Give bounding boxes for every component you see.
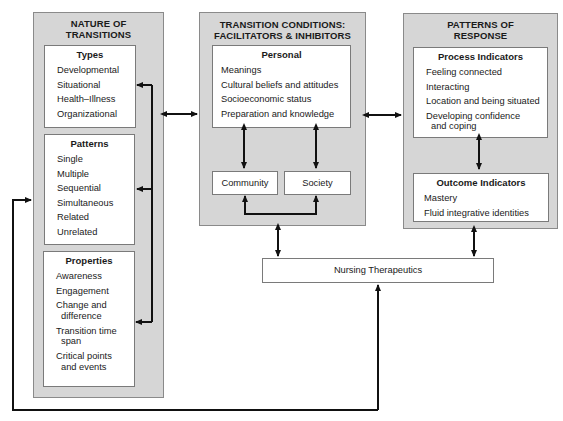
process-item: Interacting bbox=[426, 80, 547, 95]
society-box: Society bbox=[284, 171, 351, 195]
types-box: Types Developmental Situational Health–I… bbox=[44, 45, 136, 128]
pattern-item: Multiple bbox=[57, 167, 134, 182]
type-item: Situational bbox=[57, 78, 135, 93]
personal-item: Preparation and knowledge bbox=[221, 107, 350, 122]
pattern-item: Related bbox=[57, 210, 134, 225]
nursing-therapeutics-box: Nursing Therapeutics bbox=[262, 258, 494, 283]
personal-title: Personal bbox=[213, 49, 350, 61]
property-line: Critical points bbox=[56, 351, 112, 361]
personal-item: Meanings bbox=[221, 63, 350, 78]
community-label: Community bbox=[221, 178, 268, 188]
pattern-item: Unrelated bbox=[57, 225, 134, 240]
property-line-cont: difference bbox=[56, 311, 134, 322]
property-line: Engagement bbox=[56, 286, 109, 296]
property-item: Engagement bbox=[56, 284, 134, 299]
pattern-item: Sequential bbox=[57, 181, 134, 196]
pattern-item: Single bbox=[57, 152, 134, 167]
type-item: Developmental bbox=[57, 63, 135, 78]
property-line-cont: and events bbox=[56, 362, 134, 373]
personal-box: Personal Meanings Cultural beliefs and a… bbox=[212, 45, 351, 128]
property-item: Awareness bbox=[56, 269, 134, 284]
process-line: Feeling connected bbox=[426, 67, 502, 77]
society-label: Society bbox=[302, 178, 333, 188]
type-item: Organizational bbox=[57, 107, 135, 122]
property-item: Change anddifference bbox=[56, 298, 134, 322]
transition-conditions-panel: TRANSITION CONDITIONS: FACILITATORS & IN… bbox=[199, 12, 366, 226]
conditions-title-line1: TRANSITION CONDITIONS: bbox=[200, 19, 365, 30]
process-item: Developing confidenceand coping bbox=[426, 109, 547, 133]
nature-of-transitions-panel: NATURE OF TRANSITIONS Types Developmenta… bbox=[33, 12, 164, 398]
response-title: PATTERNS OF RESPONSE bbox=[404, 19, 557, 41]
conditions-title: TRANSITION CONDITIONS: FACILITATORS & IN… bbox=[200, 19, 365, 41]
type-item: Health–Illness bbox=[57, 92, 135, 107]
process-line: Interacting bbox=[426, 82, 469, 92]
outcome-title: Outcome Indicators bbox=[414, 177, 548, 189]
nature-title-line2: TRANSITIONS bbox=[34, 29, 163, 40]
response-title-line1: PATTERNS OF bbox=[404, 19, 557, 30]
properties-box: Properties Awareness Engagement Change a… bbox=[43, 251, 135, 387]
patterns-box: Patterns Single Multiple Sequential Simu… bbox=[44, 134, 135, 245]
personal-item: Cultural beliefs and attitudes bbox=[221, 78, 350, 93]
personal-item: Socioeconomic status bbox=[221, 92, 350, 107]
properties-title: Properties bbox=[44, 255, 134, 267]
process-title: Process Indicators bbox=[414, 51, 547, 63]
property-line: Awareness bbox=[56, 271, 102, 281]
outcome-item: Fluid integrative identities bbox=[424, 206, 548, 221]
process-item: Location and being situated bbox=[426, 94, 547, 109]
property-item: Transition timespan bbox=[56, 324, 134, 348]
property-line: Transition time bbox=[56, 326, 117, 336]
nursing-therapeutics-label: Nursing Therapeutics bbox=[334, 265, 422, 275]
property-line-cont: span bbox=[56, 336, 134, 347]
property-line: Change and bbox=[56, 300, 107, 310]
pattern-item: Simultaneous bbox=[57, 196, 134, 211]
nature-title-line1: NATURE OF bbox=[34, 18, 163, 29]
patterns-title: Patterns bbox=[45, 138, 134, 150]
process-item: Feeling connected bbox=[426, 65, 547, 80]
outcome-indicators-box: Outcome Indicators Mastery Fluid integra… bbox=[413, 173, 549, 222]
response-title-line2: RESPONSE bbox=[404, 30, 557, 41]
process-indicators-box: Process Indicators Feeling connected Int… bbox=[413, 47, 548, 138]
process-line: Developing confidence bbox=[426, 111, 520, 121]
nature-title: NATURE OF TRANSITIONS bbox=[34, 18, 163, 40]
conditions-title-line2: FACILITATORS & INHIBITORS bbox=[200, 30, 365, 41]
outcome-item: Mastery bbox=[424, 191, 548, 206]
process-line-cont: and coping bbox=[426, 121, 547, 132]
process-line: Location and being situated bbox=[426, 96, 540, 106]
patterns-of-response-panel: PATTERNS OF RESPONSE Process Indicators … bbox=[403, 13, 558, 229]
property-item: Critical pointsand events bbox=[56, 349, 134, 373]
types-title: Types bbox=[45, 49, 135, 61]
community-box: Community bbox=[212, 171, 278, 195]
